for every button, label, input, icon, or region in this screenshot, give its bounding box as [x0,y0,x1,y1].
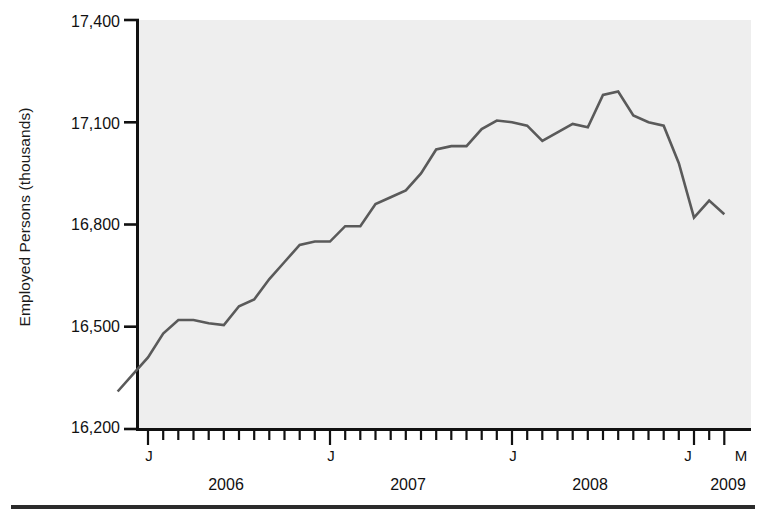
x-tick-mark-major [723,431,725,445]
x-tick-mark-minor [359,431,361,440]
x-tick-mark-minor [435,431,437,440]
x-tick-marks [147,431,726,445]
y-tick-mark [124,223,139,226]
x-tick-mark-minor [253,431,255,440]
x-tick-mark-minor [602,431,604,440]
x-tick-mark-minor [556,431,558,440]
x-tick-mark-minor [374,431,376,440]
x-tick-mark-minor [587,431,589,440]
y-tick-mark [124,121,139,124]
x-tick-mark-minor [405,431,407,440]
x-tick-mark-minor [481,431,483,440]
x-tick-label-jan-2009: J [678,448,698,463]
x-tick-mark-minor [647,431,649,440]
x-year-label-2008: 2008 [550,477,630,493]
x-tick-mark-minor [617,431,619,440]
x-tick-mark-minor [314,431,316,440]
plot-panel [139,20,751,429]
plot-area [0,0,761,470]
x-tick-mark-minor [526,431,528,440]
x-axis-spine [136,428,751,431]
x-tick-mark-minor [268,431,270,440]
x-tick-mark-minor [238,431,240,440]
x-tick-mark-minor [208,431,210,440]
x-tick-mark-major [511,431,513,445]
x-tick-mark-minor [177,431,179,440]
x-tick-label-jan-2008: J [503,448,523,463]
x-tick-mark-minor [632,431,634,440]
chart-figure: Employed Persons (thousands) 17,400 17,1… [0,0,761,526]
bottom-rule-divider [11,505,755,509]
x-tick-mark-minor [344,431,346,440]
x-tick-mark-minor [496,431,498,440]
x-tick-mark-minor [572,431,574,440]
x-tick-mark-major [693,431,695,445]
x-tick-mark-minor [299,431,301,440]
x-tick-mark-minor [678,431,680,440]
x-tick-mark-minor [192,431,194,440]
y-tick-mark [124,325,139,328]
x-tick-label-mar-2009: M [731,448,751,463]
x-tick-mark-minor [390,431,392,440]
x-tick-mark-minor [708,431,710,440]
x-year-label-2006: 2006 [186,477,266,493]
x-tick-label-jan-2007: J [321,448,341,463]
x-tick-mark-minor [162,431,164,440]
x-tick-label-jan-2006: J [139,448,159,463]
x-year-label-2007: 2007 [368,477,448,493]
x-tick-mark-minor [283,431,285,440]
x-tick-mark-minor [663,431,665,440]
x-tick-mark-minor [465,431,467,440]
x-tick-mark-minor [420,431,422,440]
x-tick-mark-minor [223,431,225,440]
x-year-label-2009: 2009 [688,477,761,493]
x-tick-mark-minor [541,431,543,440]
y-tick-mark [124,19,139,22]
x-tick-mark-major [329,431,331,445]
y-tick-mark [124,428,139,431]
x-tick-mark-major [147,431,149,445]
x-tick-mark-minor [450,431,452,440]
